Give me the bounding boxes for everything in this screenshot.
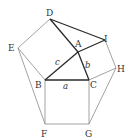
label-F: F	[41, 129, 47, 139]
label-E: E	[8, 43, 15, 53]
label-G: G	[85, 129, 92, 139]
label-H: H	[117, 64, 125, 74]
side-label-a: a	[63, 81, 68, 91]
side-label-c: c	[55, 57, 60, 67]
segment-AI	[78, 40, 105, 52]
segment-HI	[105, 40, 116, 68]
label-I: I	[104, 34, 108, 44]
label-D: D	[46, 8, 53, 18]
label-B: B	[35, 80, 42, 90]
segment-BE	[18, 48, 45, 80]
side-label-b: b	[85, 60, 90, 70]
label-A: A	[74, 39, 82, 49]
segment-AB	[45, 52, 78, 80]
label-C: C	[90, 80, 97, 90]
segment-HG	[89, 68, 116, 124]
segment-CH	[89, 68, 116, 80]
segment-ED	[18, 19, 50, 48]
pythagorean-diagram: D I A E H B C F G a b c	[0, 0, 129, 140]
